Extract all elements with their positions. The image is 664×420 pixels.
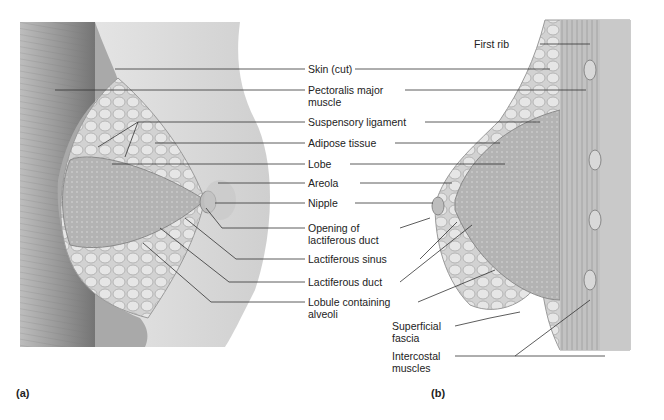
- label-lactiferous-sinus: Lactiferous sinus: [308, 253, 387, 265]
- label-areola: Areola: [308, 177, 338, 189]
- label-suspensory-ligament: Suspensory ligament: [308, 116, 406, 128]
- label-lobule-line1: Lobule containing: [308, 296, 390, 308]
- label-intercostal-muscles-line1: Intercostal: [392, 350, 440, 362]
- label-pectoralis-major-line1: Pectoralis major: [308, 84, 383, 96]
- label-intercostal-muscles-line2: muscles: [392, 362, 431, 374]
- label-superficial-fascia-line1: Superficial: [392, 320, 441, 332]
- label-pectoralis-major-line2: muscle: [308, 96, 341, 108]
- panel-label-b: (b): [431, 387, 445, 399]
- label-nipple: Nipple: [308, 197, 338, 209]
- label-adipose-tissue: Adipose tissue: [308, 137, 376, 149]
- label-lobule-line2: alveoli: [308, 308, 338, 320]
- label-lactiferous-duct: Lactiferous duct: [308, 276, 382, 288]
- label-opening-line2: lactiferous duct: [308, 234, 379, 246]
- label-first-rib: First rib: [474, 38, 509, 50]
- label-skin-cut: Skin (cut): [308, 63, 352, 75]
- label-opening-line1: Opening of: [308, 222, 359, 234]
- panel-label-a: (a): [16, 387, 29, 399]
- panel-a-illustration: [20, 22, 270, 347]
- panel-b-illustration: [432, 20, 630, 350]
- label-superficial-fascia-line2: fascia: [392, 332, 419, 344]
- label-lobe: Lobe: [308, 158, 331, 170]
